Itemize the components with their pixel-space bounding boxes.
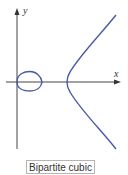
figure-caption: Bipartite cubic: [26, 160, 95, 174]
bipartite-cubic-diagram: x y: [0, 0, 128, 158]
y-axis-label: y: [22, 5, 28, 16]
y-axis-arrow-icon: [15, 8, 20, 15]
curve-oval-component: [17, 72, 42, 92]
x-axis-label: x: [113, 68, 119, 79]
x-axis-arrow-icon: [114, 80, 121, 85]
